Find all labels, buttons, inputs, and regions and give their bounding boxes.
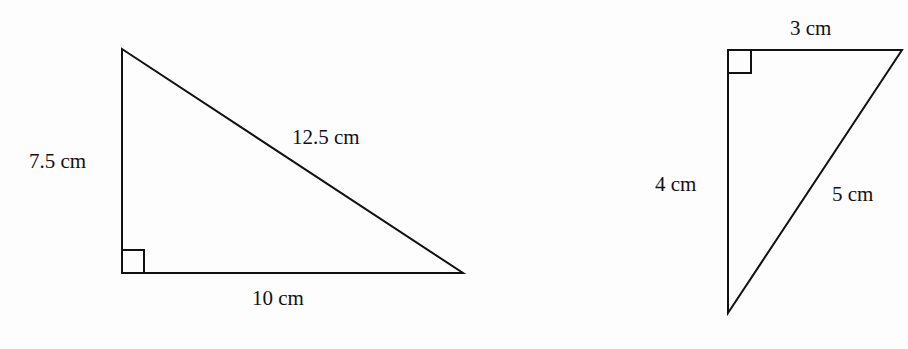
label-large-vertical: 7.5 cm (29, 151, 86, 172)
diagram-canvas: 7.5 cm 12.5 cm 10 cm 3 cm 4 cm 5 cm (0, 0, 908, 349)
triangles-drawing (0, 0, 908, 349)
triangle-small (728, 50, 902, 313)
right-angle-marker (728, 50, 751, 73)
triangle-large (122, 49, 463, 273)
label-large-hypotenuse: 12.5 cm (292, 127, 360, 148)
right-angle-marker (122, 250, 144, 273)
label-large-horizontal: 10 cm (252, 288, 304, 309)
label-small-horizontal: 3 cm (790, 18, 831, 39)
label-small-vertical: 4 cm (655, 174, 696, 195)
label-small-hypotenuse: 5 cm (832, 184, 873, 205)
